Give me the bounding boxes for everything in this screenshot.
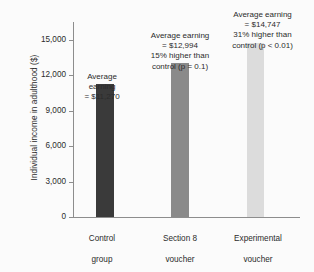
y-tick-0: 0	[69, 217, 73, 218]
x-category-line2: voucher	[243, 255, 272, 264]
y-tick-label-6000: 6,000	[46, 141, 67, 150]
y-tick-label-9000: 9,000	[46, 106, 67, 115]
bar-experimental-voucher	[247, 43, 264, 217]
y-tick-label-0: 0	[61, 212, 66, 221]
annotation-control-group: Average earning = $11,270	[62, 72, 142, 103]
x-category-line1: Experimental	[234, 234, 282, 243]
x-axis-line	[73, 217, 300, 218]
x-category-line1: Control	[89, 234, 115, 243]
bar-chart-figure: Individual income in adulthood ($) 15,00…	[0, 0, 314, 272]
x-category-label-control-group: Control group	[62, 224, 142, 266]
x-category-label-section-8-voucher: Section 8 voucher	[140, 224, 220, 266]
y-axis-title: Individual income in adulthood ($)	[30, 18, 39, 218]
annotation-experimental-voucher: Average earning = $14,747 31% higher tha…	[213, 10, 312, 51]
x-category-line2: group	[92, 255, 113, 264]
x-category-line2: voucher	[165, 255, 194, 264]
x-category-label-experimental-voucher: Experimental voucher	[215, 224, 301, 266]
y-tick-label-15000: 15,000	[41, 35, 66, 44]
y-tick-label-3000: 3,000	[46, 177, 67, 186]
y-tick-3000: 3,000	[69, 182, 73, 183]
bar-control-group	[96, 84, 114, 217]
y-tick-6000: 6,000	[69, 146, 73, 147]
x-category-line1: Section 8	[163, 234, 197, 243]
bar-section-8-voucher	[171, 63, 189, 217]
y-axis-line	[73, 22, 74, 218]
y-tick-9000: 9,000	[69, 111, 73, 112]
y-tick-15000: 15,000	[69, 40, 73, 41]
